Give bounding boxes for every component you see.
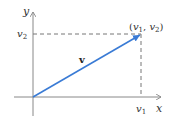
v2-tick-sub: 2: [23, 33, 27, 41]
v1-tick-label: v1: [136, 103, 146, 116]
vector-v-label: v: [78, 54, 86, 65]
v1-tick-sub: 1: [142, 108, 146, 116]
x-axis-label: x: [156, 102, 163, 115]
endpoint-close-paren: ): [160, 21, 164, 32]
y-axis-label: y: [22, 5, 30, 18]
vector-v-arrow: [33, 35, 140, 97]
vector-diagram: y x v2 v1 (v1, v2) v: [0, 0, 177, 121]
endpoint-label: (v1, v2): [129, 21, 164, 34]
v2-tick-label: v2: [17, 28, 27, 41]
